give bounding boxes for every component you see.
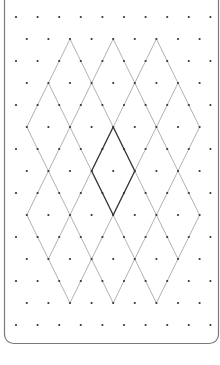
grid-dot — [166, 236, 168, 238]
grid-dot — [58, 148, 60, 150]
grid-dot — [91, 170, 93, 172]
grid-dot — [166, 104, 168, 106]
grid-dot — [91, 38, 93, 40]
grid-dot — [209, 148, 211, 150]
grid-dot — [101, 280, 103, 282]
grid-dot — [15, 104, 17, 106]
grid-dot — [145, 280, 147, 282]
grid-dot — [26, 258, 28, 260]
grid-dot — [15, 60, 17, 62]
grid-dot — [58, 236, 60, 238]
grid-dot — [199, 38, 201, 40]
grid-dot — [188, 280, 190, 282]
grid-dot — [15, 148, 17, 150]
grid-dot — [47, 258, 49, 260]
grid-dot — [166, 280, 168, 282]
grid-dot — [15, 236, 17, 238]
grid-dot — [177, 258, 179, 260]
grid-dot — [134, 82, 136, 84]
grid-dot — [47, 214, 49, 216]
grid-dot — [155, 302, 157, 304]
grid-dot — [69, 214, 71, 216]
grid-dot — [37, 16, 39, 18]
grid-dot — [37, 236, 39, 238]
grid-dot — [80, 192, 82, 194]
grid-dot — [37, 280, 39, 282]
grid-dot — [37, 148, 39, 150]
grid-dot — [177, 170, 179, 172]
grid-dot — [112, 82, 114, 84]
grid-dot — [37, 60, 39, 62]
grid-dot — [177, 214, 179, 216]
grid-dot — [26, 82, 28, 84]
grid-dot — [155, 38, 157, 40]
grid-dot — [101, 104, 103, 106]
grid-dot — [209, 236, 211, 238]
grid-dot — [101, 236, 103, 238]
grid-dot — [209, 60, 211, 62]
grid-dot — [101, 324, 103, 326]
grid-dot — [145, 16, 147, 18]
grid-dot — [199, 82, 201, 84]
grid-dot — [177, 302, 179, 304]
grid-dot — [101, 16, 103, 18]
grid-dot — [166, 16, 168, 18]
grid-dot — [15, 324, 17, 326]
grid-dot — [123, 60, 125, 62]
grid-dot — [47, 126, 49, 128]
grid-dot — [123, 16, 125, 18]
grid-dot — [58, 280, 60, 282]
grid-dot — [123, 148, 125, 150]
grid-dot — [91, 82, 93, 84]
grid-dot — [134, 302, 136, 304]
grid-dot — [80, 60, 82, 62]
grid-dot — [134, 170, 136, 172]
grid-dot — [155, 170, 157, 172]
grid-dot — [209, 104, 211, 106]
grid-dot — [209, 280, 211, 282]
grid-dot — [91, 214, 93, 216]
grid-dot — [47, 82, 49, 84]
grid-dot — [26, 214, 28, 216]
grid-dot — [199, 302, 201, 304]
grid-dot — [58, 324, 60, 326]
grid-dot — [112, 38, 114, 40]
grid-dot — [15, 16, 17, 18]
grid-dot — [177, 126, 179, 128]
grid-dot — [80, 148, 82, 150]
dot-grid — [15, 16, 212, 326]
grid-dot — [112, 302, 114, 304]
grid-dot — [188, 16, 190, 18]
grid-dot — [145, 104, 147, 106]
grid-dot — [58, 192, 60, 194]
grid-dot — [58, 16, 60, 18]
grid-dot — [58, 60, 60, 62]
grid-dot — [188, 60, 190, 62]
grid-dot — [69, 82, 71, 84]
grid-dot — [177, 82, 179, 84]
grid-dot — [145, 60, 147, 62]
grid-dot — [188, 104, 190, 106]
grid-dot — [58, 104, 60, 106]
grid-dot — [166, 148, 168, 150]
grid-dot — [26, 170, 28, 172]
grid-dot — [123, 104, 125, 106]
grid-dot — [188, 148, 190, 150]
grid-dot — [209, 16, 211, 18]
grid-dot — [155, 258, 157, 260]
grid-dot — [69, 258, 71, 260]
grid-dot — [199, 170, 201, 172]
grid-dot — [80, 236, 82, 238]
grid-dot — [37, 324, 39, 326]
grid-dot — [101, 192, 103, 194]
grid-dot — [26, 126, 28, 128]
grid-dot — [47, 302, 49, 304]
grid-dot — [199, 214, 201, 216]
grid-dot — [134, 214, 136, 216]
grid-dot — [37, 104, 39, 106]
grid-dot — [134, 126, 136, 128]
grid-dot — [69, 170, 71, 172]
grid-dot — [145, 192, 147, 194]
grid-dot — [209, 324, 211, 326]
grid-dot — [112, 214, 114, 216]
